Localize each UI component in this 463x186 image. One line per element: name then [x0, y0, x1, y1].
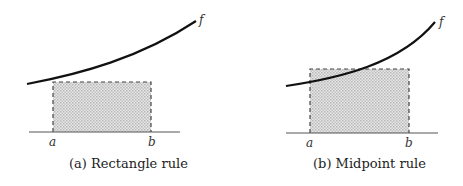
- caption-rectangle-rule: (a) Rectangle rule: [69, 156, 188, 171]
- f-label: f: [198, 13, 206, 27]
- f-label: f: [438, 15, 446, 29]
- b-label: b: [405, 136, 413, 150]
- a-label: a: [306, 136, 313, 150]
- rectangle-area: [53, 82, 151, 132]
- panel-rectangle-rule: f a b: [27, 13, 206, 149]
- b-label: b: [148, 135, 156, 149]
- a-label: a: [49, 135, 56, 149]
- caption-midpoint-rule: (b) Midpoint rule: [313, 156, 426, 171]
- panel-midpoint-rule: f a b: [286, 15, 446, 150]
- function-curve: [27, 21, 196, 84]
